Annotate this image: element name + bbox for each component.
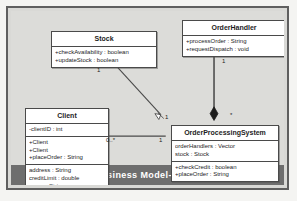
class-member: +Client xyxy=(29,147,105,155)
class-member: +checkCredit : boolean xyxy=(175,164,275,172)
class-operations-compartment: +Client +Client +placeOrder : String xyxy=(26,136,108,165)
class-member: orderHandlers : Vector xyxy=(175,143,275,151)
hollow-arrowhead-icon xyxy=(155,114,161,120)
class-member: creditLimit : double xyxy=(29,175,105,183)
multiplicity-orderhandler-target: * xyxy=(230,112,232,118)
class-properties-compartment: address : String creditLimit : double na… xyxy=(26,164,108,185)
class-member: name : String xyxy=(29,183,105,185)
class-attributes-compartment: -clientID : int xyxy=(26,123,108,136)
class-name-orderprocessingsystem: OrderProcessingSystem xyxy=(172,126,278,140)
diagram-canvas[interactable]: 1 1 1 * 0..* 1 Stock +checkAvailability … xyxy=(11,11,284,185)
class-box-client[interactable]: Client -clientID : int +Client +Client +… xyxy=(25,108,109,185)
class-member: +requestDispatch : void xyxy=(186,46,282,54)
class-member: stock : Stock xyxy=(175,151,275,159)
filled-diamond-icon xyxy=(210,107,218,121)
class-name-stock: Stock xyxy=(52,32,156,46)
multiplicity-stock-target: 1 xyxy=(165,114,168,120)
class-member: +Client xyxy=(29,139,105,147)
class-member: address : String xyxy=(29,167,105,175)
class-box-stock[interactable]: Stock +checkAvailability : boolean +upda… xyxy=(51,31,157,68)
diagram-frame: 1 1 1 * 0..* 1 Stock +checkAvailability … xyxy=(6,6,289,190)
multiplicity-client-target: 1 xyxy=(159,137,162,143)
class-operations-compartment: +checkCredit : boolean +placeOrder : Str… xyxy=(172,161,278,182)
connector-orderhandler-orderprocessingsystem xyxy=(210,50,218,120)
multiplicity-orderhandler-source: 1 xyxy=(222,58,225,64)
class-member: +updateStock : boolean xyxy=(55,57,153,65)
class-member: -clientID : int xyxy=(29,126,105,134)
arrowhead-bar xyxy=(158,113,164,119)
class-member: +processOrder : String xyxy=(186,38,282,46)
multiplicity-client-source: 0..* xyxy=(106,137,115,143)
class-operations-compartment: +processOrder : String +requestDispatch … xyxy=(183,35,284,56)
diagram-page: 1 1 1 * 0..* 1 Stock +checkAvailability … xyxy=(0,0,297,201)
class-name-client: Client xyxy=(26,109,108,123)
class-name-orderhandler: OrderHandler xyxy=(183,21,284,35)
multiplicity-stock-source: 1 xyxy=(97,67,100,73)
class-member: +placeOrder : String xyxy=(29,154,105,162)
class-box-orderhandler[interactable]: OrderHandler +processOrder : String +req… xyxy=(182,20,284,57)
class-attributes-compartment: orderHandlers : Vector stock : Stock xyxy=(172,140,278,161)
class-operations-compartment: +checkAvailability : boolean +updateStoc… xyxy=(52,46,156,67)
class-member: +placeOrder : String xyxy=(175,171,275,179)
class-member: +checkAvailability : boolean xyxy=(55,49,153,57)
class-box-orderprocessingsystem[interactable]: OrderProcessingSystem orderHandlers : Ve… xyxy=(171,125,279,182)
